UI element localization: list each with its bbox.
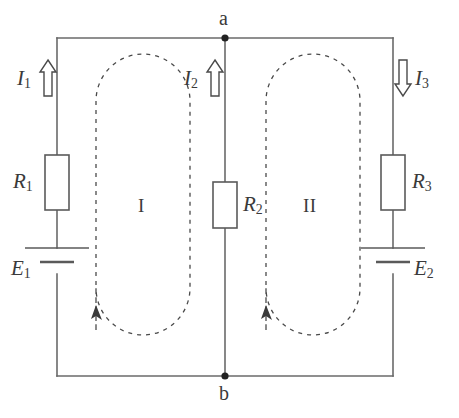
circuit-schematic-canvas (0, 0, 459, 418)
mesh-loop-label-1: I (138, 196, 145, 215)
mesh-loop-label-2: II (303, 196, 317, 215)
current-label-i1: I1 (17, 68, 31, 91)
node-dot-b (221, 372, 228, 379)
source-label-e1: E1 (11, 258, 31, 281)
current-arrow-i3-down (395, 60, 411, 96)
current-label-i2: I2 (184, 68, 198, 91)
source-label-e2: E2 (414, 258, 434, 281)
resistor-r3-body (381, 155, 405, 210)
node-label-b: b (219, 383, 229, 403)
resistor-r1-body (45, 155, 69, 210)
resistor-label-r2: R2 (243, 194, 263, 217)
current-arrow-i1-up (40, 60, 56, 96)
node-dot-a (221, 34, 228, 41)
current-arrow-i2-up (207, 60, 223, 96)
resistor-r2-body (213, 182, 237, 228)
battery-e1-symbol (25, 248, 89, 262)
node-label-a: a (219, 8, 228, 28)
resistor-label-r3: R3 (412, 171, 432, 194)
current-label-i3: I3 (415, 68, 429, 91)
circuit-diagram: a b I1 I2 I3 R1 R2 R3 E1 E2 I II (0, 0, 459, 418)
resistor-label-r1: R1 (13, 171, 33, 194)
